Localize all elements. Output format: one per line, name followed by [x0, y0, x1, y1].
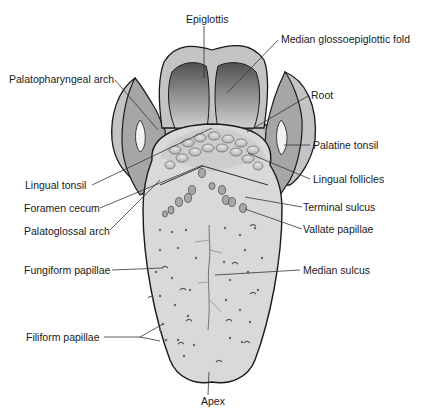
label-median-glossoepiglottic-fold: Median glossoepiglottic fold [281, 34, 410, 45]
epiglottis-right-vallecula [215, 63, 260, 128]
label-lingual-follicles: Lingual follicles [313, 174, 384, 185]
label-apex: Apex [201, 396, 225, 407]
tongue-anatomy-diagram: Epiglottis Median glossoepiglottic fold … [0, 0, 425, 416]
label-epiglottis: Epiglottis [186, 14, 229, 25]
label-lingual-tonsil: Lingual tonsil [25, 180, 86, 191]
label-fungiform-papillae: Fungiform papillae [24, 265, 110, 276]
label-vallate-papillae: Vallate papillae [303, 224, 373, 235]
label-filiform-papillae: Filiform papillae [26, 332, 100, 343]
epiglottis-left-vallecula [168, 63, 209, 128]
label-median-sulcus: Median sulcus [303, 265, 370, 276]
label-palatopharyngeal-arch: Palatopharyngeal arch [9, 74, 114, 85]
label-terminal-sulcus: Terminal sulcus [303, 202, 375, 213]
label-palatoglossal-arch: Palatoglossal arch [24, 226, 110, 237]
label-root: Root [311, 90, 333, 101]
label-foramen-cecum: Foramen cecum [24, 203, 100, 214]
label-palatine-tonsil: Palatine tonsil [313, 140, 378, 151]
